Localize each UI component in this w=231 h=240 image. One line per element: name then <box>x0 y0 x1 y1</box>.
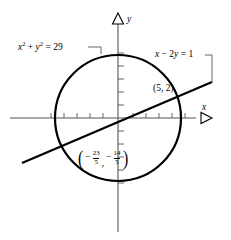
first-denominator: 5 <box>93 158 99 167</box>
circle-eq-plus: + <box>25 42 35 52</box>
line-equation-label: x − 2y = 1 <box>155 50 193 60</box>
x-axis-ticks-positive <box>133 113 185 118</box>
second-negative-sign: − <box>106 153 111 163</box>
intersection-point-lower-label: ( − 23 5 , − 14 5 ) <box>77 147 129 169</box>
y-axis-label: y <box>127 15 131 25</box>
circle-eq-equals: = 29 <box>43 42 63 52</box>
first-fraction: 23 5 <box>92 150 101 166</box>
circle-label-leader-line <box>88 47 101 54</box>
second-numerator: 14 <box>112 150 121 158</box>
y-axis-ticks-upper <box>118 53 124 105</box>
graph-canvas <box>0 0 231 240</box>
line-eq-minus: − 2 <box>159 49 174 59</box>
coordinate-comma: , <box>102 159 104 170</box>
first-numerator: 23 <box>92 150 101 158</box>
x-axis-arrowhead-icon <box>201 113 212 124</box>
open-paren: ( <box>78 149 83 168</box>
first-negative-sign: − <box>85 153 90 163</box>
intersection-point-upper-label: (5, 2) <box>153 84 174 94</box>
circle-equation-label: x2 + y2 = 29 <box>18 41 63 53</box>
close-paren: ) <box>123 149 128 168</box>
line-eq-equals: = 1 <box>178 49 193 59</box>
line-label-leader-line <box>205 55 212 83</box>
x-axis-ticks-negative <box>51 113 103 118</box>
second-fraction: 14 5 <box>112 150 121 166</box>
second-denominator: 5 <box>114 158 120 167</box>
y-axis-arrowhead-icon <box>113 13 124 24</box>
x-axis-label: x <box>202 103 206 113</box>
